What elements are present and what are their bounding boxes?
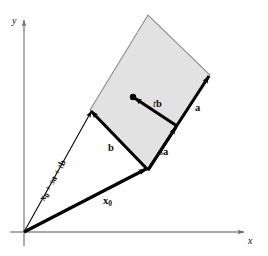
vector-b-label: b — [108, 143, 114, 154]
diagram-canvas — [0, 0, 268, 256]
vector-sa-label: sa — [159, 147, 168, 158]
y-axis-label: y — [12, 16, 16, 26]
vector-tb-label: tb — [153, 99, 162, 110]
vector-x0-label: x0 — [103, 196, 112, 208]
vector-sa-label-vector: a — [163, 146, 168, 157]
vector-x0-label-subscript: 0 — [108, 199, 112, 208]
vector-tb-label-vector: b — [156, 98, 162, 109]
x-axis-label: x — [248, 236, 252, 246]
terminal-point-dot — [130, 94, 136, 100]
vector-a-label: a — [195, 103, 200, 114]
vector-diagram-figure: y x x0 x0 + sa + tb b a sa tb — [0, 0, 268, 256]
